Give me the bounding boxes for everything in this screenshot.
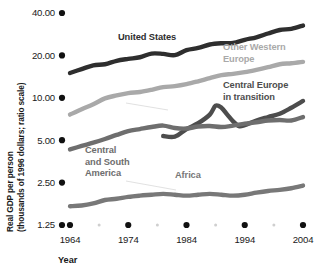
y-tick-dot [59,52,65,58]
series-label-central-and-south-america: Central [85,145,116,155]
series-label-central-and-south-america: and South [85,157,130,167]
x-tick-dot [183,222,189,228]
x-tick-label: 1984 [176,234,197,245]
series-label-central-europe-in-transition: Central Europe [223,80,288,90]
y-tick-dot [59,10,65,16]
x-minor-tick-dot [156,224,159,227]
series-line [70,186,303,207]
x-tick-dot [125,222,131,228]
y-tick-dot [59,137,65,143]
label-leader-lines [126,103,176,190]
y-tick-dot [59,180,65,186]
y-tick-label: 40.00 [32,7,55,18]
x-tick-dot [300,222,306,228]
leader-line [126,103,168,110]
gdp-per-person-line-chart: 40.0020.0010.005.002.501.25 196419741984… [0,0,318,269]
x-tick-dot [67,222,73,228]
y-tick-dot [59,222,65,228]
y-axis-tick-labels: 40.0020.0010.005.002.501.25 [32,7,55,230]
leader-line [126,181,176,190]
y-tick-label: 2.50 [37,177,55,188]
x-minor-tick-dot [214,224,217,227]
y-tick-dot [59,95,65,101]
x-minor-tick-dot [98,224,101,227]
series-label-central-and-south-america: America [85,168,122,178]
x-minor-tick-dot [272,224,275,227]
x-axis-tick-dots [67,222,306,228]
x-tick-label: 1994 [234,234,255,245]
y-tick-label: 20.00 [32,50,55,61]
y-axis-title: Real GDP per person (thousands of 1996 d… [5,82,26,232]
series-label-united-states: United States [118,32,176,42]
x-tick-label: 1964 [60,234,81,245]
y-tick-label: 10.00 [32,92,55,103]
series-label-central-europe-in-transition: in transition [223,92,275,102]
series-label-africa: Africa [175,170,202,180]
y-tick-label: 1.25 [37,219,55,230]
series-label-other-western-europe: Other Western [223,42,286,52]
series-annotations: United StatesOther WesternEuropeCentral … [85,32,288,180]
x-tick-label: 1974 [118,234,139,245]
y-axis-tick-dots [59,10,65,228]
x-tick-dot [242,222,248,228]
series-label-other-western-europe: Europe [223,54,254,64]
x-tick-label: 2004 [293,234,314,245]
y-tick-label: 5.00 [37,135,55,146]
chart-container: 40.0020.0010.005.002.501.25 196419741984… [0,0,318,269]
y-axis-title-line1: Real GDP per person [5,151,15,232]
x-axis-tick-labels: 19641974198419942004 [60,234,314,245]
x-axis-title: Year [58,255,78,265]
y-axis-title-line2: (thousands of 1996 dollars; ratio scale) [16,82,26,232]
